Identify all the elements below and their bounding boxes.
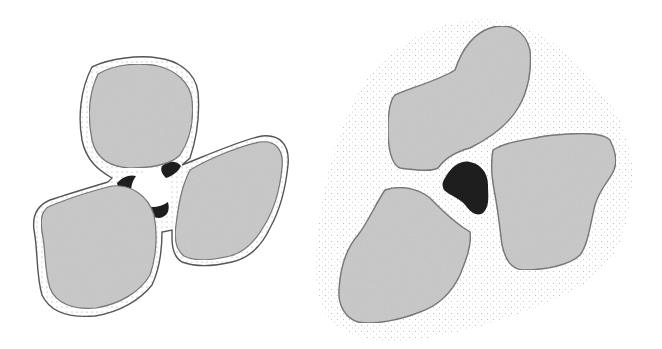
panel-right-stipple-halo [316,19,633,341]
figure-canvas [0,0,662,349]
soil-grain [90,64,193,168]
soil-pore-diagram [0,0,662,349]
panel-left-film-water [34,57,289,316]
soil-grain [175,142,282,260]
